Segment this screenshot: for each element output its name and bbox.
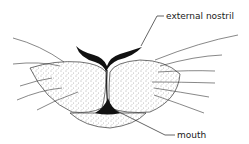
left-whisker-pad [30,62,106,113]
chin-pad [70,113,146,128]
right-whisker-pad [109,60,180,113]
cat-muzzle-diagram: external nostril mouth [0,0,249,144]
label-mouth: mouth [177,130,206,140]
external-nostril-leader [141,16,164,46]
label-external-nostril: external nostril [166,11,234,21]
